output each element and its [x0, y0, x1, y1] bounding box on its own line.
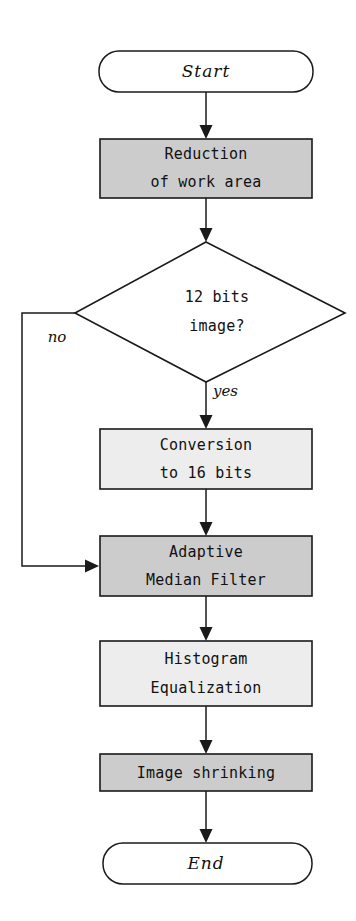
node-histogram[interactable]: Histogram Equalization [100, 641, 312, 706]
node-reduction[interactable]: Reduction of work area [100, 139, 312, 198]
edge-histogram-to-shrinking [200, 706, 213, 754]
node-start-label: Start [182, 61, 231, 81]
node-histogram-label-line1: Histogram [164, 650, 247, 668]
node-decision-label-line1: 12 bits [185, 288, 250, 306]
flowchart-diagram: yes no St [0, 0, 356, 921]
edge-label-no: no [48, 328, 67, 346]
node-decision-shape[interactable] [75, 242, 345, 382]
node-end-label: End [186, 853, 224, 873]
node-median-filter[interactable]: Adaptive Median Filter [100, 536, 312, 596]
edge-median-to-histogram [200, 596, 213, 641]
node-start[interactable]: Start [99, 51, 313, 92]
flowchart-canvas: yes no St [0, 0, 356, 921]
node-reduction-label-line2: of work area [151, 173, 262, 191]
node-median-filter-label-line1: Adaptive [169, 543, 243, 561]
edge-reduction-to-decision [200, 198, 213, 242]
edge-label-yes: yes [212, 382, 238, 400]
node-conversion-label-line1: Conversion [160, 436, 252, 454]
node-decision-label-line2: image? [189, 317, 244, 335]
edge-shrinking-to-end [200, 791, 213, 843]
edge-conversion-to-median [200, 489, 213, 536]
node-median-filter-label-line2: Median Filter [146, 571, 266, 589]
node-decision[interactable]: 12 bits image? [75, 242, 345, 382]
edge-decision-no-to-median: no [22, 313, 99, 573]
node-reduction-label-line1: Reduction [164, 145, 247, 163]
node-conversion-label-line2: to 16 bits [160, 464, 252, 482]
node-image-shrinking-label: Image shrinking [137, 764, 275, 782]
edge-decision-yes-to-conversion: yes [200, 382, 239, 429]
node-end[interactable]: End [103, 843, 312, 884]
node-image-shrinking[interactable]: Image shrinking [100, 754, 312, 791]
node-histogram-label-line2: Equalization [151, 679, 262, 697]
node-conversion[interactable]: Conversion to 16 bits [100, 429, 312, 489]
edge-start-to-reduction [200, 92, 213, 139]
